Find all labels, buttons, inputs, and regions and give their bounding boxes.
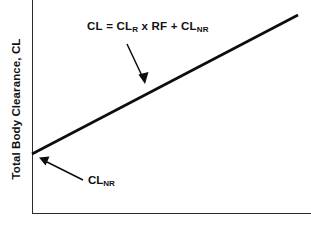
y-axis-label-text: Total Body Clearance, CL [10, 39, 22, 180]
equation-annotation: CL = CLR x RF + CLNR [87, 20, 209, 34]
equation-term1-subscript: R [132, 25, 138, 34]
equation-term1-base: CL [116, 20, 132, 32]
equation-term3-base: CL [181, 20, 197, 32]
clearance-trend-line [32, 15, 298, 154]
equation-arrow-shaft [127, 44, 143, 78]
intercept-arrow-shaft [45, 161, 83, 180]
equation-plus: + [171, 20, 178, 32]
equation-arrow-head [139, 72, 149, 84]
figure-canvas: Total Body Clearance, CL CL = CLR x RF +… [0, 0, 311, 234]
plot-area [0, 0, 311, 234]
y-axis-label: Total Body Clearance, CL [10, 29, 22, 189]
equation-term2: RF [152, 20, 168, 32]
intercept-label-base: CL [88, 174, 103, 186]
intercept-arrow-head [39, 157, 50, 166]
intercept-label-subscript: NR [103, 179, 115, 188]
intercept-annotation: CLNR [88, 174, 115, 188]
equation-term3-subscript: NR [197, 25, 209, 34]
equation-lhs: CL [87, 20, 103, 32]
